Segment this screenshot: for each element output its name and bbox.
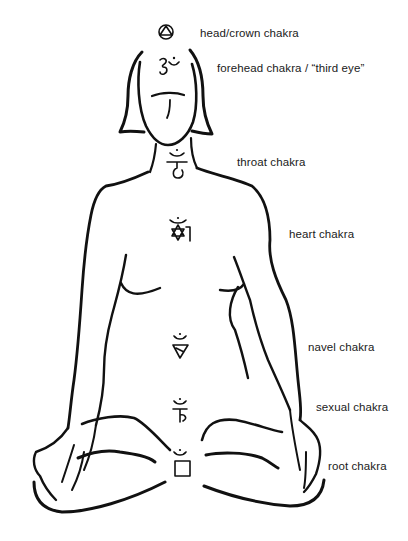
label-throat-chakra: throat chakra bbox=[237, 156, 305, 168]
root-chakra-symbol bbox=[174, 449, 190, 476]
brow bbox=[152, 93, 184, 96]
crown-chakra-symbol bbox=[159, 25, 173, 39]
label-crown-chakra: head/crown chakra bbox=[200, 27, 299, 39]
navel-chakra-symbol bbox=[173, 333, 188, 358]
right-thigh-top bbox=[202, 420, 282, 440]
right-torso-side bbox=[230, 287, 248, 378]
right-breast bbox=[220, 284, 244, 291]
nose bbox=[167, 100, 170, 118]
neck-left bbox=[150, 144, 156, 172]
heart-chakra-symbol bbox=[170, 217, 190, 241]
label-navel-chakra: navel chakra bbox=[308, 341, 374, 353]
face-outline bbox=[138, 62, 196, 145]
left-breast bbox=[121, 283, 160, 294]
left-arm-inner bbox=[96, 255, 126, 425]
sexual-chakra-symbol bbox=[173, 398, 187, 422]
throat-chakra-symbol bbox=[167, 149, 187, 178]
right-hand bbox=[300, 420, 320, 492]
right-arm-inner bbox=[234, 257, 290, 410]
label-heart-chakra: heart chakra bbox=[289, 228, 354, 240]
label-sexual-chakra: sexual chakra bbox=[316, 401, 388, 413]
neck-right bbox=[191, 138, 197, 168]
label-root-chakra: root chakra bbox=[328, 460, 387, 472]
right-knee-bottom bbox=[204, 480, 324, 506]
label-forehead-chakra: forehead chakra / “third eye” bbox=[217, 62, 364, 74]
chakra-diagram: head/crown chakra forehead chakra / “thi… bbox=[0, 0, 408, 541]
left-arm-outer bbox=[68, 172, 148, 428]
left-hand bbox=[34, 428, 68, 500]
forehead-chakra-symbol bbox=[160, 57, 179, 74]
right-shin bbox=[206, 453, 278, 468]
